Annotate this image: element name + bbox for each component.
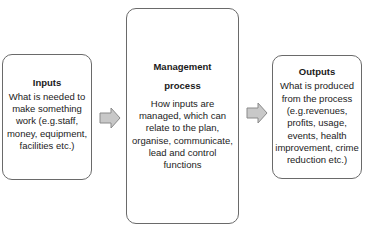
outputs-box: Outputs What is produced from the proces… (272, 55, 362, 179)
outputs-description: What is produced from the process (e.g.r… (274, 80, 360, 166)
right-arrow-icon (246, 102, 268, 124)
management-process-box: Management process How inputs are manage… (126, 8, 239, 224)
outputs-title: Outputs (274, 65, 360, 78)
inputs-content: Inputs What is needed to make something … (4, 76, 90, 152)
management-content: Management process How inputs are manage… (130, 57, 236, 172)
management-description: How inputs are managed, which can relate… (130, 98, 236, 172)
outputs-content: Outputs What is produced from the proces… (274, 65, 360, 166)
inputs-title: Inputs (4, 76, 90, 89)
inputs-box: Inputs What is needed to make something … (2, 54, 92, 180)
management-title: Management process (148, 57, 218, 95)
inputs-description: What is needed to make something work (e… (4, 91, 90, 152)
right-arrow-icon (99, 107, 121, 129)
